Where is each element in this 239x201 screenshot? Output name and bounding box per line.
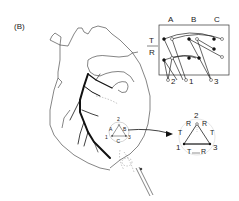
triangle-vertex-1: 1 <box>176 143 181 152</box>
column-label-c: C <box>214 15 220 24</box>
triangle-vertex-3: 3 <box>213 143 218 152</box>
output-label-3: 3 <box>214 77 219 86</box>
heart-electrode-diagram: (B) <box>0 0 239 201</box>
inset-point-2: 2 <box>117 116 120 122</box>
triangle-edge-right-side: T <box>210 129 215 136</box>
output-label-2: 2 <box>171 77 176 86</box>
arrowhead-icon <box>166 131 173 137</box>
panel-label: (B) <box>14 22 25 31</box>
inset-label-c: C <box>117 138 121 144</box>
triangle-edge-left-side: T <box>178 129 183 136</box>
row-label-r: R <box>149 48 155 57</box>
connection-arrow <box>128 129 173 137</box>
inset-label-b: B <box>123 126 127 132</box>
triangle-edge-bottom-left: T <box>187 148 192 155</box>
triangle-edge-bottom-right: R <box>201 148 206 155</box>
triangle-edge-right-top: R <box>202 120 207 127</box>
coronary-vessels <box>70 74 112 158</box>
catheter <box>136 167 153 196</box>
heart-electrode-inset: A B C 1 2 3 <box>105 116 131 144</box>
triangle-edge-left-top: R <box>186 120 191 127</box>
inset-point-3: 3 <box>128 134 131 140</box>
triangle-vertex-2: 2 <box>194 111 199 120</box>
column-label-a: A <box>168 15 174 24</box>
inset-label-a: A <box>109 126 113 132</box>
output-label-1: 1 <box>189 77 194 86</box>
row-label-t: T <box>149 36 154 45</box>
column-label-b: B <box>191 15 196 24</box>
inset-point-1: 1 <box>105 134 108 140</box>
lead-triangle: 2 1 3 R R T T T R <box>176 111 218 155</box>
lead-switch-box: A B C T R <box>147 15 229 86</box>
